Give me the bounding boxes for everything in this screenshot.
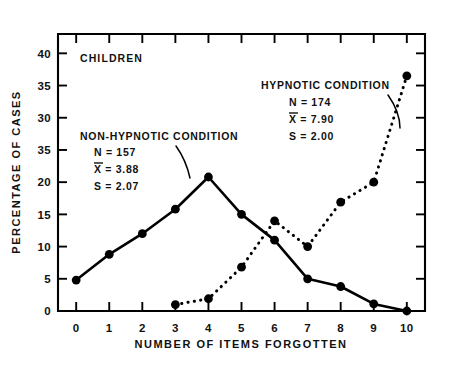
y-axis-title: PERCENTAGE OF CASES [10,90,22,253]
data-point [237,263,246,272]
data-point [402,71,411,80]
hypnotic-title: HYPNOTIC CONDITION [261,79,390,91]
data-point [270,236,279,245]
data-point [303,274,312,283]
hypnotic-sd: S = 2.00 [289,130,334,142]
y-tick-label: 5 [44,273,51,285]
y-tick-label: 10 [37,241,51,253]
x-tick-label: 4 [205,322,212,334]
data-point [369,178,378,187]
y-tick-label: 0 [44,305,51,317]
data-point [204,173,213,182]
y-tick-label: 40 [37,48,51,60]
x-tick-label: 0 [73,322,80,334]
hypnotic-mean: X = 7.90 [289,113,334,125]
x-tick-label: 2 [139,322,146,334]
data-point [171,205,180,214]
x-tick-label: 5 [238,322,245,334]
x-tick-label: 6 [271,322,278,334]
x-tick-label: 9 [370,322,377,334]
data-point [336,198,345,207]
data-point [204,294,213,303]
x-tick-label: 1 [106,322,113,334]
non-hypnotic-mean: X = 3.88 [94,163,139,175]
non-hypnotic-title: NON-HYPNOTIC CONDITION [80,130,238,142]
y-tick-label: 15 [37,209,51,221]
data-point [105,250,114,259]
group-label-children: CHILDREN [80,52,143,64]
data-point [402,307,411,316]
y-tick-label: 20 [37,176,51,188]
x-tick-label: 3 [172,322,179,334]
y-tick-label: 35 [37,80,51,92]
hypnotic-n: N = 174 [289,96,331,108]
data-point [369,300,378,309]
y-tick-label: 30 [37,112,51,124]
non-hypnotic-mean-text: X = 3.88 [94,163,139,175]
data-point [237,210,246,219]
line-chart: 0510152035303540 012345678910 NUMBER OF … [0,0,453,365]
y-tick-label: 35 [37,144,51,156]
figure-container: 0510152035303540 012345678910 NUMBER OF … [0,0,453,365]
x-tick-label: 10 [400,322,414,334]
data-point [303,242,312,251]
data-point [336,282,345,291]
x-tick-label: 7 [304,322,311,334]
data-point [72,276,81,285]
data-point [171,300,180,309]
non-hypnotic-sd: S = 2.07 [94,180,139,192]
hypnotic-mean-text: X = 7.90 [289,113,334,125]
data-point [138,229,147,238]
non-hypnotic-n: N = 157 [94,146,136,158]
x-axis-title: NUMBER OF ITEMS FORGOTTEN [135,338,348,350]
x-tick-label: 8 [337,322,344,334]
data-point [270,216,279,225]
